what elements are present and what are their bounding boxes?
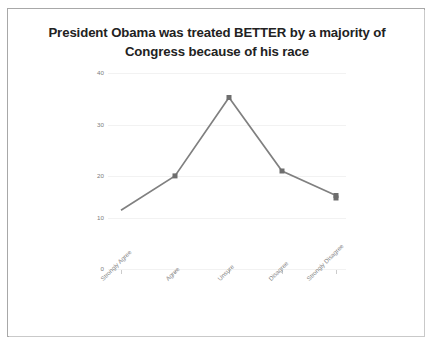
chart-frame: President Obama was treated BETTER by a …: [7, 8, 425, 337]
data-marker-agree: [227, 95, 232, 100]
y-tick-label-0: 0: [82, 265, 104, 272]
gridlines: [108, 74, 346, 270]
y-tick-label-30: 30: [82, 121, 104, 128]
data-line-series-responses: [121, 98, 336, 211]
y-tick-label-40: 40: [82, 69, 104, 76]
chart-screenshot: President Obama was treated BETTER by a …: [0, 0, 433, 349]
y-tick-label-10: 10: [82, 214, 104, 221]
line-chart-svg: [8, 9, 426, 338]
data-marker-strongly-agree: [173, 173, 178, 178]
data-marker-strongly-disagree: [334, 196, 339, 201]
data-marker-unsure: [280, 169, 285, 174]
plot-area: 40 30 20 10 0 Strongly Agree Agree Unsur…: [8, 9, 426, 338]
y-tick-label-20: 20: [82, 172, 104, 179]
